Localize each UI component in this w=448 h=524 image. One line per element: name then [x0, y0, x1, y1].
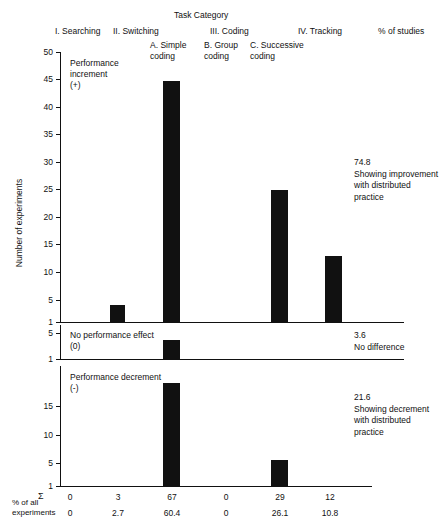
- annotation-no-effect-text: No difference: [354, 342, 404, 352]
- panel-increment-note: Performance increment (+): [70, 58, 119, 91]
- tick-p2-5: [56, 333, 61, 334]
- panel-no-effect-y-axis: [60, 325, 61, 359]
- bar-increment-simple-coding: [163, 81, 180, 322]
- bar-decrement-successive-coding: [271, 460, 288, 486]
- tick-40: [56, 107, 61, 108]
- sum-col-4: 0: [204, 492, 248, 502]
- tick-p3-5: [56, 463, 61, 464]
- figure-canvas: Task Category I. Searching II. Switching…: [0, 0, 448, 524]
- tick-45: [56, 79, 61, 80]
- annotation-increment: 74.8 Showing improvement with distribute…: [354, 157, 438, 203]
- tick-label-p3-10: 10: [29, 431, 53, 440]
- sum-col-2: 3: [96, 492, 140, 502]
- panel-decrement-note: Performance decrement (-): [70, 372, 161, 394]
- sum-col-6: 12: [308, 492, 352, 502]
- panel-decrement-baseline: [60, 486, 372, 487]
- tick-label-p3-15: 15: [29, 402, 53, 411]
- tick-label-1: 1: [29, 318, 53, 327]
- annotation-decrement: 21.6 Showing decrement with distributed …: [354, 392, 429, 438]
- tick-label-35: 35: [29, 130, 53, 139]
- pct-col-1: 0: [48, 508, 92, 518]
- tick-label-45: 45: [29, 75, 53, 84]
- annotation-no-effect: 3.6 No difference: [354, 330, 404, 353]
- tick-label-50: 50: [29, 48, 53, 57]
- subhead-group-coding: B. Group coding: [204, 40, 238, 61]
- tick-label-p3-1: 1: [29, 482, 53, 491]
- tick-p2-1: [56, 359, 61, 360]
- tick-15: [56, 244, 61, 245]
- tick-label-10: 10: [29, 268, 53, 277]
- tick-label-30: 30: [29, 158, 53, 167]
- tick-20: [56, 217, 61, 218]
- tick-25: [56, 189, 61, 190]
- bar-increment-tracking: [325, 256, 342, 322]
- annotation-decrement-pct: 21.6: [354, 392, 371, 402]
- pct-col-4: 0: [204, 508, 248, 518]
- subhead-simple-coding: A. Simple coding: [150, 40, 186, 61]
- tick-50: [56, 52, 61, 53]
- panel-increment-y-axis: [60, 52, 61, 323]
- subhead-successive-coding: C. Successive coding: [250, 40, 304, 61]
- tick-5: [56, 300, 61, 301]
- sum-col-5: 29: [258, 492, 302, 502]
- annotation-no-effect-pct: 3.6: [354, 330, 366, 340]
- bar-no-effect-simple-coding: [163, 340, 180, 359]
- annotation-increment-pct: 74.8: [354, 157, 371, 167]
- sum-col-3: 67: [150, 492, 194, 502]
- tick-label-20: 20: [29, 213, 53, 222]
- tick-label-p2-5: 5: [29, 329, 53, 338]
- bar-decrement-simple-coding: [163, 383, 180, 486]
- panel-no-effect-baseline: [60, 359, 352, 360]
- tick-p3-1: [56, 486, 61, 487]
- tick-p3-10: [56, 435, 61, 436]
- bar-increment-successive-coding: [271, 190, 288, 322]
- group-header-tracking: IV. Tracking: [298, 26, 342, 37]
- bar-increment-switching: [110, 305, 125, 322]
- panel-increment-baseline: [60, 322, 352, 323]
- tick-35: [56, 134, 61, 135]
- tick-label-15: 15: [29, 240, 53, 249]
- annotation-decrement-text: Showing decrement with distributed pract…: [354, 404, 429, 437]
- tick-p3-15: [56, 406, 61, 407]
- tick-label-p2-1: 1: [29, 355, 53, 364]
- group-header-switching: II. Switching: [113, 26, 159, 37]
- pct-col-3: 60.4: [150, 508, 194, 518]
- tick-label-25: 25: [29, 185, 53, 194]
- group-header-searching: I. Searching: [55, 26, 100, 37]
- panel-no-effect-note: No performance effect (0): [70, 330, 154, 352]
- tick-label-40: 40: [29, 103, 53, 112]
- tick-10: [56, 272, 61, 273]
- pct-col-2: 2.7: [96, 508, 140, 518]
- y-axis-title: Number of experiments: [14, 158, 24, 288]
- percent-of-studies-header: % of studies: [378, 26, 424, 37]
- annotation-rule-top: [352, 322, 404, 323]
- annotation-rule-middle: [352, 359, 404, 360]
- tick-label-p3-5: 5: [29, 459, 53, 468]
- group-header-coding: III. Coding: [210, 26, 249, 37]
- tick-30: [56, 162, 61, 163]
- tick-1: [56, 322, 61, 323]
- panel-decrement-y-axis: [60, 366, 61, 486]
- tick-label-5: 5: [29, 296, 53, 305]
- pct-col-5: 26.1: [258, 508, 302, 518]
- pct-col-6: 10.8: [308, 508, 352, 518]
- task-category-title: Task Category: [174, 10, 228, 21]
- annotation-increment-text: Showing improvement with distributed pra…: [354, 169, 438, 202]
